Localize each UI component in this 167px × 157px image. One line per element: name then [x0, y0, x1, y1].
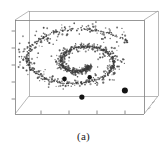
scatter-point [116, 27, 118, 29]
scatter-point [92, 46, 94, 48]
scatter-point [41, 36, 42, 37]
scatter-point [82, 74, 83, 75]
scatter-point [61, 27, 63, 29]
scatter-point [31, 44, 33, 46]
scatter-point [62, 50, 64, 52]
scatter-point [93, 47, 95, 49]
scatter-point [83, 48, 85, 50]
scatter-point [92, 23, 94, 25]
scatter-point [113, 73, 115, 75]
scatter-point [81, 29, 83, 31]
scatter-point [22, 51, 24, 53]
scatter-point [100, 33, 101, 34]
scatter-point [96, 49, 98, 51]
scatter-point [65, 48, 66, 49]
scatter-point [85, 45, 87, 47]
scatter-point [39, 80, 40, 81]
scatter-point [62, 55, 64, 57]
scatter-point [77, 76, 79, 78]
scatter-point [79, 67, 80, 68]
scatter-point [29, 50, 31, 52]
scatter-point [26, 69, 28, 71]
scatter-point [73, 48, 75, 50]
scatter-point [66, 83, 68, 85]
scatter-point [103, 42, 104, 43]
scatter-point [107, 65, 108, 66]
scatter-point [48, 34, 50, 36]
scatter-point [79, 51, 80, 52]
scatter-point [18, 56, 20, 58]
scatter-point [88, 49, 90, 51]
scatter-point [34, 41, 36, 43]
scatter-point [69, 28, 71, 30]
scatter-point [45, 77, 47, 79]
scatter-point [55, 32, 57, 34]
scatter-point [68, 84, 69, 85]
scatter-point [109, 61, 110, 62]
scatter-point [66, 54, 68, 56]
scatter-point [113, 69, 115, 71]
scatter-point [82, 25, 83, 26]
scatter-point [51, 79, 53, 81]
scatter-point [52, 44, 54, 46]
scatter-point [22, 67, 24, 69]
scatter-point [111, 51, 113, 53]
scatter-point [22, 35, 24, 37]
scatter-point [77, 81, 78, 82]
scatter-point [33, 62, 35, 64]
scatter-point [22, 59, 24, 61]
scatter-point [118, 66, 120, 68]
scatter-point [61, 33, 63, 35]
scatter-point [19, 61, 21, 63]
scatter-point [99, 53, 100, 54]
highlighted-point [79, 95, 84, 100]
scatter-point [118, 45, 120, 47]
scatter-point [114, 58, 116, 60]
scatter-point [26, 62, 28, 64]
scatter-point [93, 81, 95, 83]
scatter-point [69, 70, 71, 72]
y-axis-ticks [12, 31, 15, 99]
scatter-point [37, 57, 38, 58]
scatter-point [103, 49, 105, 51]
scatter-point [113, 79, 115, 81]
scatter-point [37, 52, 39, 54]
scatter-point [61, 30, 63, 32]
scatter-point [99, 56, 101, 58]
scatter-point [89, 31, 91, 33]
scatter-point [85, 71, 87, 73]
scatter-point [82, 69, 84, 71]
scatter-point [58, 33, 60, 35]
scatter-point [63, 70, 64, 71]
scatter-point [46, 27, 48, 29]
scatter-point [28, 50, 29, 51]
scatter-point [108, 33, 110, 35]
scatter-point [89, 70, 90, 71]
scatter-point [39, 39, 41, 41]
scatter-point [111, 70, 113, 72]
scatter-point [53, 33, 55, 35]
scatter-point [87, 46, 89, 48]
scatter-point [64, 54, 66, 56]
scatter-point [48, 86, 50, 88]
highlighted-point [87, 75, 91, 79]
scatter-point [100, 46, 101, 47]
scatter-point [81, 27, 82, 28]
scatter-point [123, 59, 124, 60]
scatter-point [91, 80, 93, 82]
scatter-point [51, 76, 53, 78]
scatter-point [39, 76, 41, 78]
scatter-point [91, 30, 93, 32]
scatter-point [89, 46, 91, 48]
scatter-point [117, 59, 119, 61]
scatter-point [62, 88, 64, 90]
scatter-point [109, 29, 111, 31]
scatter-point [32, 63, 33, 64]
scatter-point [76, 48, 78, 50]
scatter-point [116, 41, 118, 43]
scatter-point [109, 55, 111, 57]
scatter-point [31, 58, 33, 60]
scatter-point [94, 79, 96, 81]
scatter-point [107, 56, 108, 57]
scatter-point [84, 29, 86, 31]
